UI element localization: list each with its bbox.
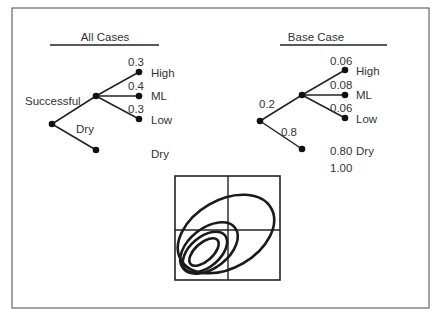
success-prob: 0.2 bbox=[259, 98, 275, 110]
root-node bbox=[49, 121, 56, 128]
chance-node bbox=[93, 93, 100, 100]
successful-label: Successful bbox=[25, 95, 81, 107]
outcome-label-high: High bbox=[151, 67, 175, 79]
base-case-tree: Base Case 0.2 0.8 0.06 0.08 0.06 High ML… bbox=[257, 31, 387, 174]
root-node bbox=[257, 118, 264, 125]
outcome-node-ml bbox=[342, 92, 349, 99]
chance-node bbox=[299, 92, 306, 99]
prob-low: 0.06 bbox=[330, 102, 352, 114]
outcome-node-low bbox=[136, 116, 143, 123]
prob-ml: 0.4 bbox=[128, 80, 145, 92]
all-cases-title: All Cases bbox=[81, 31, 130, 43]
prob-ml: 0.08 bbox=[330, 79, 352, 91]
contour-outer bbox=[164, 179, 288, 290]
base-case-title: Base Case bbox=[288, 31, 344, 43]
outcome-node-high bbox=[342, 67, 349, 74]
outcome-label-low: Low bbox=[151, 114, 173, 126]
figure-canvas: All Cases Successful Dry 0.3 0.4 0.3 Hig… bbox=[0, 0, 439, 316]
outcome-node-high bbox=[136, 69, 143, 76]
outcome-label-high: High bbox=[356, 65, 380, 77]
outcome-label-low: Low bbox=[356, 113, 378, 125]
dry-branch-label: Dry bbox=[76, 123, 94, 135]
dry-node bbox=[93, 147, 100, 154]
dry-node bbox=[299, 146, 306, 153]
prob-low: 0.3 bbox=[128, 103, 144, 115]
dry-outcome-prob: 0.80 bbox=[330, 145, 352, 157]
prob-high: 0.06 bbox=[330, 55, 352, 67]
dry-prob: 0.8 bbox=[281, 126, 297, 138]
contour-plot bbox=[164, 176, 288, 289]
outcome-label-ml: ML bbox=[356, 89, 373, 101]
prob-high: 0.3 bbox=[128, 56, 144, 68]
dry-outcome-label: Dry bbox=[356, 145, 374, 157]
outcome-node-low bbox=[342, 115, 349, 122]
all-cases-tree: All Cases Successful Dry 0.3 0.4 0.3 Hig… bbox=[25, 31, 175, 160]
outcome-label-dry: Dry bbox=[151, 148, 169, 160]
outcome-node-ml bbox=[136, 93, 143, 100]
total-prob: 1.00 bbox=[330, 162, 352, 174]
outcome-label-ml: ML bbox=[151, 90, 168, 102]
